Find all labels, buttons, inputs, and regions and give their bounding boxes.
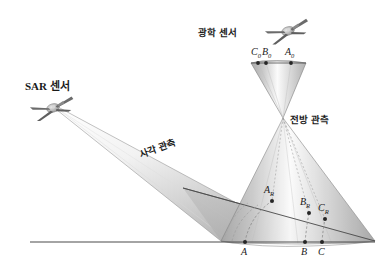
- point-marker-A: [243, 240, 247, 244]
- point-marker-B0: [264, 61, 268, 65]
- point-marker-A0: [289, 61, 293, 65]
- point-marker-BR: [307, 211, 311, 215]
- point-marker-B: [303, 240, 307, 244]
- diagram-canvas: 광학 센서 SAR 센서 전방 관측 사각 관측 C0 B0 A0 AR BR …: [0, 0, 388, 276]
- forward-observation-lower-cone: [221, 118, 375, 246]
- point-marker-C: [320, 240, 324, 244]
- point-marker-CR: [323, 217, 327, 221]
- diagram-svg: [0, 0, 388, 276]
- point-marker-AR: [270, 199, 274, 203]
- point-marker-C0: [256, 61, 260, 65]
- optical-sensor-aircraft: [265, 18, 312, 47]
- forward-observation-upper-cone: [251, 61, 306, 119]
